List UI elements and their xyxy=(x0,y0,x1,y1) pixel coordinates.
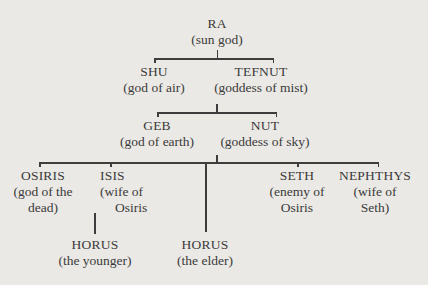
node-name: NEPHTHYS xyxy=(339,168,411,184)
connector-tick-nephthys xyxy=(378,162,380,167)
node-name: RA xyxy=(191,16,242,32)
node-name: TEFNUT xyxy=(214,64,308,80)
connector-tick-seth xyxy=(297,162,299,167)
node-osiris: OSIRIS (god of the dead) xyxy=(13,168,72,216)
node-description: Seth) xyxy=(339,200,411,216)
node-description: (god of earth) xyxy=(120,134,194,150)
connector-shu-tefnut-stem xyxy=(216,104,218,112)
connector-ra-children xyxy=(154,58,274,60)
node-description: (goddess of mist) xyxy=(214,80,308,96)
connector-tick-shu xyxy=(154,58,156,63)
node-tefnut: TEFNUT (goddess of mist) xyxy=(214,64,308,96)
node-description: (the elder) xyxy=(177,253,233,269)
node-geb: GEB (god of earth) xyxy=(120,118,194,150)
connector-tick-nut xyxy=(276,112,278,117)
node-name: OSIRIS xyxy=(13,168,72,184)
node-description: (the younger) xyxy=(58,253,131,269)
node-seth: SETH (enemy of Osiris xyxy=(269,168,324,216)
node-horus-elder: HORUS (the elder) xyxy=(177,237,233,269)
connector-tick-geb xyxy=(157,112,159,117)
connector-horus-elder xyxy=(205,162,207,232)
node-name: SETH xyxy=(269,168,324,184)
connector-ra-stem xyxy=(217,50,219,58)
connector-shu-tefnut-children xyxy=(157,112,277,114)
connector-geb-nut-children xyxy=(39,162,379,164)
connector-tick-tefnut xyxy=(273,58,275,63)
connector-geb-nut-stem xyxy=(216,155,218,162)
node-name: NUT xyxy=(220,118,309,134)
node-name: SHU xyxy=(123,64,184,80)
node-name: ISIS xyxy=(100,168,147,184)
node-isis: ISIS (wife of Osiris xyxy=(100,168,147,216)
node-description: (wife of xyxy=(100,184,147,200)
node-ra: RA (sun god) xyxy=(191,16,242,48)
connector-tick-isis xyxy=(110,162,112,167)
node-nephthys: NEPHTHYS (wife of Seth) xyxy=(339,168,411,216)
node-description: (goddess of sky) xyxy=(220,134,309,150)
node-description: (god of air) xyxy=(123,80,184,96)
node-nut: NUT (goddess of sky) xyxy=(220,118,309,150)
connector-horus-younger xyxy=(94,213,96,234)
node-description: (wife of xyxy=(339,184,411,200)
node-shu: SHU (god of air) xyxy=(123,64,184,96)
node-horus-younger: HORUS (the younger) xyxy=(58,237,131,269)
node-description: (god of the xyxy=(13,184,72,200)
node-description: (sun god) xyxy=(191,32,242,48)
node-description: Osiris xyxy=(269,200,324,216)
node-name: HORUS xyxy=(177,237,233,253)
egyptian-gods-family-tree: RA (sun god) SHU (god of air) TEFNUT (go… xyxy=(0,0,428,285)
node-description: (enemy of xyxy=(269,184,324,200)
node-name: GEB xyxy=(120,118,194,134)
node-description: dead) xyxy=(13,200,72,216)
connector-tick-osiris xyxy=(39,162,41,167)
node-description: Osiris xyxy=(100,200,147,216)
node-name: HORUS xyxy=(58,237,131,253)
